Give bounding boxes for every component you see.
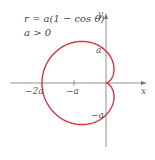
- tick-label-neg-a: −a: [66, 87, 79, 96]
- y-axis-arrow-icon: [104, 13, 108, 19]
- cardioid-plot: [0, 0, 155, 160]
- y-axis-label: y: [98, 10, 103, 19]
- x-axis-label: x: [141, 87, 146, 96]
- tick-label-neg-2a: −2a: [25, 87, 44, 96]
- x-axis-arrow-icon: [141, 81, 147, 85]
- condition-label: a > 0: [24, 28, 51, 38]
- tick-label-neg-a-y: −a: [91, 111, 104, 120]
- tick-label-a: a: [96, 46, 101, 55]
- equation-label: r = a(1 − cos θ): [24, 14, 104, 24]
